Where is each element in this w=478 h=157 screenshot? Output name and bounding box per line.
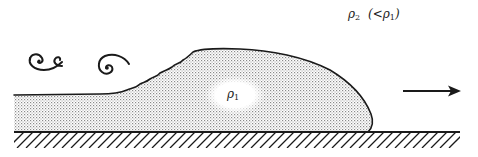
eddy-icon-2 — [99, 55, 129, 74]
eddy-icon-1 — [30, 57, 62, 70]
ambient-density-note: (<ρ1) — [368, 8, 400, 22]
ambient-density-label: ρ2 — [348, 8, 360, 22]
eddy-icon-1-curl — [30, 54, 43, 62]
gravity-current-diagram — [0, 0, 478, 157]
current-density-label: ρ1 — [227, 88, 239, 102]
direction-arrow-icon — [403, 86, 461, 97]
ground-hatching — [8, 132, 465, 148]
dense-fluid-current — [14, 49, 372, 132]
